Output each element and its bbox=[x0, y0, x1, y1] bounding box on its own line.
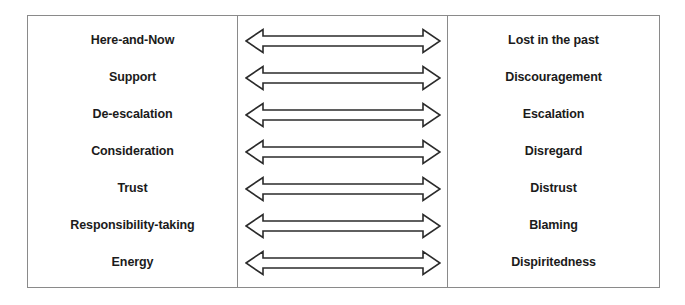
left-pole-row: Support bbox=[28, 59, 237, 96]
right-pole-row: Escalation bbox=[448, 96, 659, 133]
right-pole-row: Disregard bbox=[448, 133, 659, 170]
right-pole-row: Discouragement bbox=[448, 59, 659, 96]
right-pole-label: Disregard bbox=[525, 145, 582, 158]
left-pole-label: Consideration bbox=[91, 145, 174, 158]
double-headed-arrow-icon bbox=[245, 102, 441, 128]
right-pole-label: Dispiritedness bbox=[511, 256, 596, 269]
arrow-row bbox=[238, 22, 447, 59]
left-pole-label: Responsibility-taking bbox=[70, 219, 194, 232]
left-pole-label: Here-and-Now bbox=[91, 34, 175, 47]
right-pole-column: Lost in the past Discouragement Escalati… bbox=[448, 16, 659, 287]
left-pole-label: Trust bbox=[117, 182, 147, 195]
left-pole-label: Energy bbox=[112, 256, 154, 269]
arrow-row bbox=[238, 207, 447, 244]
arrow-row bbox=[238, 59, 447, 96]
double-headed-arrow-icon bbox=[245, 139, 441, 165]
right-pole-label: Blaming bbox=[529, 219, 578, 232]
arrow-row bbox=[238, 244, 447, 281]
left-pole-label: Support bbox=[109, 71, 156, 84]
left-pole-row: De-escalation bbox=[28, 96, 237, 133]
right-pole-row: Distrust bbox=[448, 170, 659, 207]
double-headed-arrow-icon bbox=[245, 176, 441, 202]
right-pole-label: Distrust bbox=[530, 182, 576, 195]
right-pole-label: Escalation bbox=[523, 108, 585, 121]
left-pole-row: Consideration bbox=[28, 133, 237, 170]
right-pole-row: Blaming bbox=[448, 207, 659, 244]
left-pole-column: Here-and-Now Support De-escalation Consi… bbox=[28, 16, 237, 287]
left-pole-label: De-escalation bbox=[93, 108, 173, 121]
arrow-row bbox=[238, 96, 447, 133]
left-pole-row: Responsibility-taking bbox=[28, 207, 237, 244]
left-pole-row: Trust bbox=[28, 170, 237, 207]
arrow-row bbox=[238, 133, 447, 170]
double-headed-arrow-icon bbox=[245, 250, 441, 276]
arrow-column bbox=[238, 16, 447, 287]
double-headed-arrow-icon bbox=[245, 28, 441, 54]
right-pole-label: Lost in the past bbox=[508, 34, 599, 47]
double-headed-arrow-icon bbox=[245, 213, 441, 239]
double-headed-arrow-icon bbox=[245, 65, 441, 91]
right-pole-label: Discouragement bbox=[505, 71, 602, 84]
right-pole-row: Dispiritedness bbox=[448, 244, 659, 281]
left-pole-row: Energy bbox=[28, 244, 237, 281]
arrow-row bbox=[238, 170, 447, 207]
right-pole-row: Lost in the past bbox=[448, 22, 659, 59]
polarity-diagram: Here-and-Now Support De-escalation Consi… bbox=[0, 0, 685, 305]
left-pole-row: Here-and-Now bbox=[28, 22, 237, 59]
